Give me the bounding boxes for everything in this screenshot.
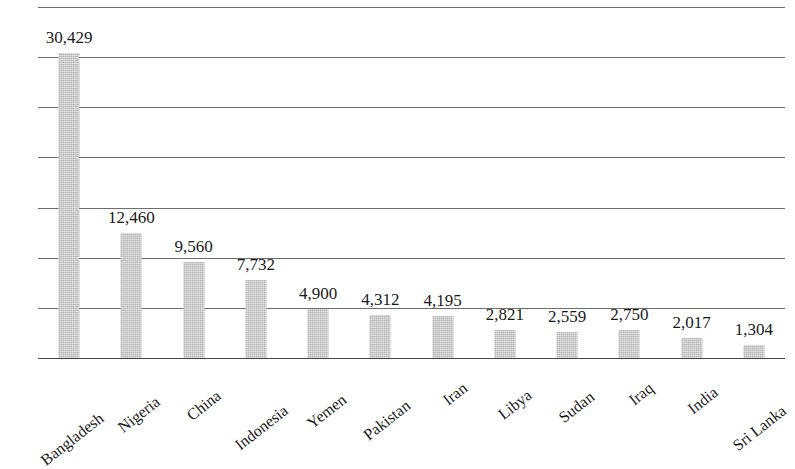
category-label: Pakistan: [361, 397, 414, 443]
gridline: [38, 308, 785, 309]
gridline: [38, 57, 785, 58]
category-label: Bangladesh: [38, 410, 107, 469]
category-label: India: [685, 384, 721, 417]
gridline: [38, 258, 785, 259]
gridline: [38, 157, 785, 158]
category-label: Yemen: [304, 391, 349, 431]
category-label: Iraq: [627, 380, 657, 408]
category-label: Libya: [495, 387, 534, 423]
category-label: Sri Lanka: [730, 403, 789, 454]
plot-area: [38, 7, 785, 358]
category-label: Sudan: [556, 389, 597, 426]
gridline: [38, 208, 785, 209]
gridline: [38, 7, 785, 8]
category-label: Iran: [440, 380, 470, 408]
category-axis-labels: BangladeshNigeriaChinaIndonesiaYemenPaki…: [38, 358, 785, 435]
category-label: Nigeria: [116, 394, 164, 436]
category-label: China: [184, 388, 224, 424]
gridline: [38, 107, 785, 108]
category-label: Indonesia: [232, 402, 291, 453]
